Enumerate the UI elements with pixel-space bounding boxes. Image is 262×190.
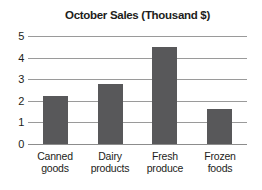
gridline-y4 [28, 58, 247, 59]
gridline-y3 [28, 79, 247, 80]
category-label-dairy-products: Dairy products [83, 150, 137, 174]
gridline-y0 [28, 144, 247, 145]
category-label-frozen-foods: Frozen foods [193, 150, 247, 174]
y-axis-tick-label-1: 1 [4, 117, 24, 128]
y-axis-tick-label-2: 2 [4, 96, 24, 107]
bar-chart: October Sales (Thousand $) 012345Canned … [0, 0, 262, 190]
category-label-fresh-produce: Fresh produce [138, 150, 192, 174]
y-axis-tick-label-4: 4 [4, 53, 24, 64]
plot-area: 012345Canned goodsDairy productsFresh pr… [0, 0, 262, 190]
bar-frozen-foods [207, 109, 232, 144]
y-axis-tick-label-0: 0 [4, 139, 24, 150]
bar-fresh-produce [152, 47, 177, 144]
y-axis-tick-label-5: 5 [4, 31, 24, 42]
gridline-y5 [28, 36, 247, 37]
bar-dairy-products [98, 84, 123, 144]
y-axis-tick-label-3: 3 [4, 74, 24, 85]
bar-canned-goods [43, 96, 68, 144]
category-label-canned-goods: Canned goods [28, 150, 82, 174]
